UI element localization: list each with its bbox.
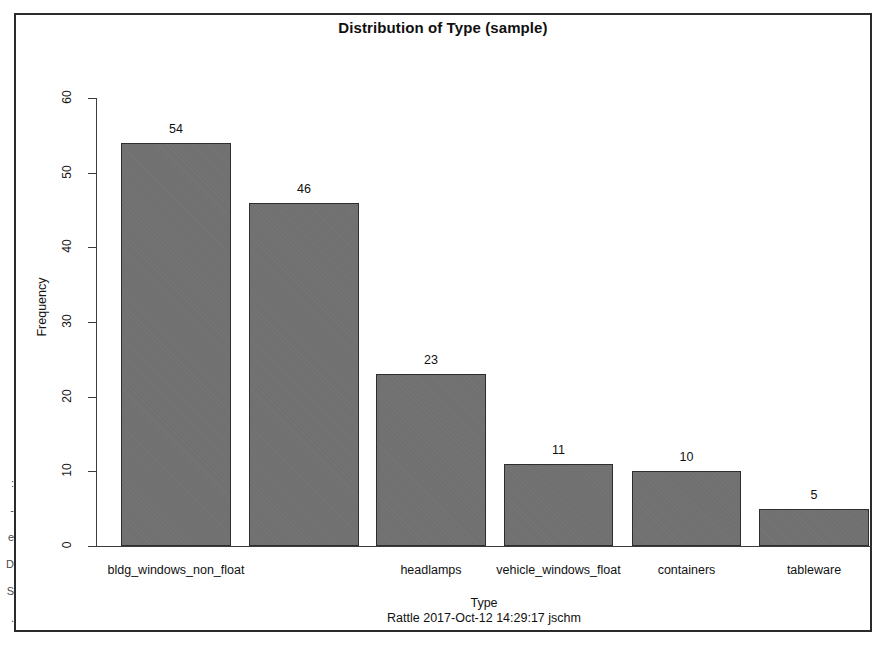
y-tick-label: 60 (60, 82, 74, 112)
y-axis-title: Frequency (35, 257, 49, 357)
bar (249, 203, 359, 546)
y-tick-mark (88, 397, 96, 398)
x-tick-label: tableware (664, 563, 885, 577)
x-axis-title: Type (96, 596, 872, 610)
bar-value-label: 10 (632, 450, 741, 464)
chart-subtitle: Rattle 2017-Oct-12 14:29:17 jschm (96, 611, 872, 625)
y-tick-label: 10 (60, 455, 74, 485)
y-tick-label: 0 (60, 530, 74, 560)
y-tick-mark (88, 471, 96, 472)
bar-chart-plot-area: Frequency 0102030405060 54bldg_windows_n… (0, 0, 885, 647)
y-tick-label: 20 (60, 381, 74, 411)
x-axis-line (96, 546, 872, 547)
bar-value-label: 54 (121, 122, 231, 136)
bar-value-label: 23 (376, 353, 486, 367)
y-tick-label: 50 (60, 157, 74, 187)
y-tick-label: 30 (60, 306, 74, 336)
bar (504, 464, 613, 546)
y-tick-mark (88, 98, 96, 99)
bar-value-label: 46 (249, 182, 359, 196)
bar (759, 509, 869, 546)
bar (121, 143, 231, 546)
bar (632, 471, 741, 546)
y-tick-mark (88, 322, 96, 323)
y-axis-line (96, 98, 97, 547)
y-tick-label: 40 (60, 231, 74, 261)
bar-value-label: 5 (759, 488, 869, 502)
y-tick-mark (88, 173, 96, 174)
bar-value-label: 11 (504, 443, 613, 457)
y-tick-mark (88, 546, 96, 547)
y-tick-mark (88, 247, 96, 248)
bar (376, 374, 486, 546)
